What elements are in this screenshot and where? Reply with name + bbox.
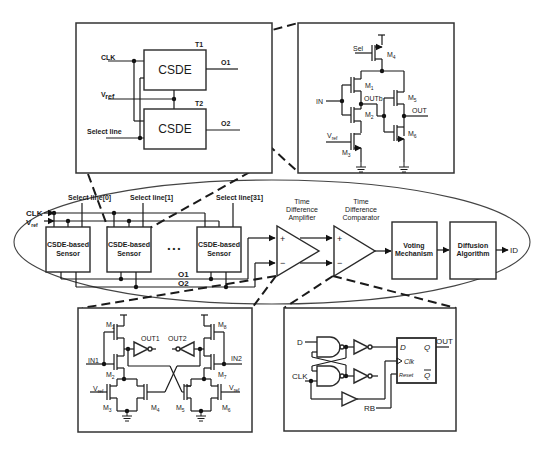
svg-text:D: D — [400, 343, 406, 352]
svg-text:−: − — [337, 258, 342, 268]
out-label-br: OUT — [436, 337, 453, 346]
svg-text:+: + — [280, 234, 285, 244]
svg-text:Algorithm: Algorithm — [456, 250, 489, 258]
csde-2-label: CSDE — [158, 122, 191, 136]
svg-text:Time: Time — [353, 198, 368, 205]
id-output-label: ID — [510, 246, 518, 255]
t2-label: T2 — [195, 100, 203, 107]
d-input-label: D — [297, 338, 303, 347]
svg-text:Comparator: Comparator — [343, 214, 381, 222]
csde-1-label: CSDE — [158, 63, 191, 77]
svg-text:Difference: Difference — [286, 206, 318, 213]
svg-text:Sensor: Sensor — [207, 250, 231, 257]
time-difference-amplifier: Time Difference Amplifier + − — [277, 198, 319, 276]
in1-label: IN1 — [88, 357, 99, 364]
select-line-label: Select line — [87, 128, 122, 135]
o1-label: O1 — [221, 59, 230, 66]
svg-text:Sensor: Sensor — [117, 250, 141, 257]
svg-text:Time: Time — [294, 198, 309, 205]
nand-gate-1 — [317, 337, 340, 357]
in2-label: IN2 — [231, 355, 242, 362]
clk-input-label-br: CLK — [292, 372, 308, 381]
qbar-label: Q — [424, 371, 430, 380]
o1-bus-label: O1 — [178, 270, 189, 279]
svg-text:+: + — [337, 234, 342, 244]
out-label-tr: OUT — [412, 107, 428, 114]
svg-text:Reset: Reset — [399, 372, 414, 378]
svg-text:Amplifier: Amplifier — [288, 214, 316, 222]
outb-label: OUTb — [364, 95, 383, 102]
in-label: IN — [316, 98, 323, 105]
select-line-1-label: Select line[1] — [130, 194, 173, 202]
ellipsis: • • • — [168, 244, 181, 253]
inset-tda-transistor: M1 IN1 OUT1 M2 Vref M3 — [78, 308, 252, 432]
out1-label: OUT1 — [141, 335, 160, 342]
inset-csde-pair: CLK CSDE T1 O1 Vref CSDE T2 O2 Select li… — [76, 23, 272, 173]
svg-text:Voting: Voting — [403, 242, 424, 250]
nand-gate-2 — [317, 366, 340, 386]
svg-text:Difference: Difference — [345, 206, 377, 213]
t1-label: T1 — [195, 41, 203, 48]
inset-csde-transistor: Sel M4 M1 IN OUTb — [298, 23, 454, 173]
o2-bus-label: O2 — [178, 279, 189, 288]
svg-text:Clk: Clk — [404, 358, 415, 365]
clk-input-label: CLK — [26, 209, 43, 218]
sel-label: Sel — [353, 45, 364, 52]
svg-text:CSDE-based: CSDE-based — [108, 241, 150, 248]
o2-label: O2 — [221, 120, 230, 127]
clk-label: CLK — [101, 54, 115, 61]
select-line-0-label: Select line[0] — [68, 194, 111, 202]
rb-input-label: RB — [364, 404, 375, 413]
circuit-diagram: CLK CSDE T1 O1 Vref CSDE T2 O2 Select li… — [0, 0, 544, 453]
svg-text:CSDE-based: CSDE-based — [198, 241, 240, 248]
svg-text:Sensor: Sensor — [56, 250, 80, 257]
select-line-31-label: Select line[31] — [216, 194, 263, 202]
inset-tdc-logic: D CLK RB — [284, 308, 456, 431]
svg-text:Q: Q — [424, 343, 430, 352]
svg-text:Mechanism: Mechanism — [395, 250, 433, 257]
svg-text:Diffusion: Diffusion — [458, 242, 488, 249]
svg-text:−: − — [280, 258, 285, 268]
out2-label: OUT2 — [168, 335, 187, 342]
svg-text:CSDE-based: CSDE-based — [47, 241, 89, 248]
time-difference-comparator: Time Difference Comparator + − — [334, 198, 380, 276]
